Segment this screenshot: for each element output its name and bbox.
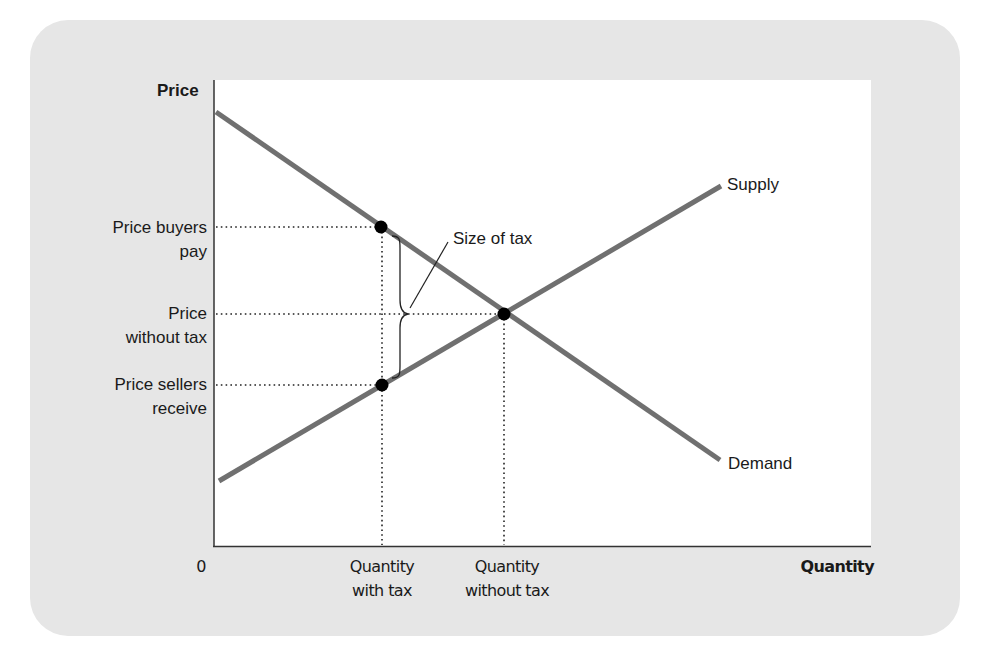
xtick-quantity-without-tax: Quantity without tax (447, 555, 567, 603)
xtick-line: with tax (332, 579, 432, 603)
size-of-tax-label: Size of tax (453, 227, 532, 251)
xtick-line: without tax (447, 579, 567, 603)
x-axis-title: Quantity (790, 555, 874, 579)
demand-label: Demand (728, 452, 792, 476)
tax-brace (392, 236, 408, 378)
ytick-price-without-tax: Price without tax (80, 302, 207, 350)
y-axis-title: Price (157, 79, 199, 103)
ytick-line: Price buyers (80, 216, 207, 240)
xtick-line: Quantity (332, 555, 432, 579)
ytick-line: pay (80, 240, 207, 264)
ytick-line: without tax (80, 326, 207, 350)
ytick-price-sellers-receive: Price sellers receive (80, 373, 207, 421)
xtick-line: Quantity (447, 555, 567, 579)
ytick-line: receive (80, 397, 207, 421)
origin-label: 0 (194, 555, 208, 579)
demand-curve (216, 112, 720, 460)
ytick-line: Price (80, 302, 207, 326)
xtick-quantity-with-tax: Quantity with tax (332, 555, 432, 603)
ytick-price-buyers-pay: Price buyers pay (80, 216, 207, 264)
equilibrium-point (498, 308, 511, 321)
price-sellers-receive-point (376, 379, 389, 392)
ytick-line: Price sellers (80, 373, 207, 397)
price-buyers-pay-point (375, 221, 388, 234)
supply-label: Supply (727, 173, 779, 197)
